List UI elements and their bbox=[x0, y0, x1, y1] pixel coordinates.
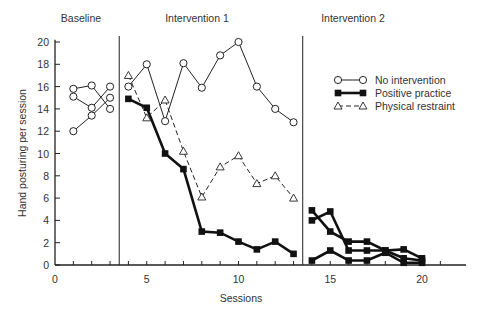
triangle-marker-icon bbox=[359, 102, 367, 109]
y-tick-label: 14 bbox=[37, 103, 49, 115]
data-series bbox=[70, 38, 426, 266]
legend-label: No intervention bbox=[375, 74, 446, 86]
circle-marker-icon bbox=[106, 94, 113, 101]
y-tick-label: 18 bbox=[37, 58, 49, 70]
y-tick-label: 16 bbox=[37, 81, 49, 93]
square-marker-icon bbox=[327, 247, 334, 254]
triangle-marker-icon bbox=[216, 163, 224, 170]
square-marker-icon bbox=[309, 217, 316, 224]
series-line bbox=[128, 75, 293, 198]
circle-marker-icon bbox=[334, 76, 341, 83]
square-marker-icon bbox=[254, 246, 261, 253]
circle-marker-icon bbox=[272, 105, 279, 112]
square-marker-icon bbox=[309, 207, 316, 214]
legend-label: Physical restraint bbox=[375, 100, 455, 112]
x-axis-label: Sessions bbox=[220, 292, 263, 304]
circle-marker-icon bbox=[180, 60, 187, 67]
triangle-marker-icon bbox=[161, 96, 169, 103]
square-marker-icon bbox=[345, 247, 352, 254]
circle-marker-icon bbox=[198, 84, 205, 91]
square-marker-icon bbox=[217, 229, 224, 236]
series-positive-practice bbox=[125, 96, 297, 258]
y-tick-label: 10 bbox=[37, 148, 49, 160]
x-tick-label: 5 bbox=[144, 273, 150, 285]
circle-marker-icon bbox=[143, 61, 150, 68]
circle-marker-icon bbox=[88, 112, 95, 119]
circle-marker-icon bbox=[253, 83, 260, 90]
square-marker-icon bbox=[364, 257, 371, 264]
series-physical-restraint bbox=[124, 71, 297, 201]
square-marker-icon bbox=[400, 259, 407, 266]
circle-marker-icon bbox=[70, 128, 77, 135]
series-baseline-c bbox=[70, 94, 114, 135]
x-tick-label: 20 bbox=[416, 273, 428, 285]
legend: No interventionPositive practicePhysical… bbox=[334, 74, 455, 112]
circle-marker-icon bbox=[125, 83, 132, 90]
square-marker-icon bbox=[327, 208, 334, 215]
square-marker-icon bbox=[162, 150, 169, 157]
circle-marker-icon bbox=[290, 119, 297, 126]
square-marker-icon bbox=[382, 249, 389, 256]
y-axis-label: Hand posturing per session bbox=[16, 89, 28, 217]
triangle-marker-icon bbox=[198, 193, 206, 200]
circle-marker-icon bbox=[359, 76, 366, 83]
circle-marker-icon bbox=[88, 104, 95, 111]
x-tick-label: 0 bbox=[52, 273, 58, 285]
square-marker-icon bbox=[272, 238, 279, 245]
square-marker-icon bbox=[364, 247, 371, 254]
phase-label: Baseline bbox=[61, 12, 101, 24]
phase-label: Intervention 1 bbox=[165, 12, 229, 24]
phase-label: Intervention 2 bbox=[321, 12, 385, 24]
series-no-intervention bbox=[125, 38, 297, 125]
y-tick-label: 2 bbox=[43, 237, 49, 249]
triangle-marker-icon bbox=[235, 152, 243, 159]
square-marker-icon bbox=[364, 238, 371, 245]
square-marker-icon bbox=[235, 238, 242, 245]
circle-marker-icon bbox=[162, 118, 169, 125]
circle-marker-icon bbox=[106, 83, 113, 90]
circle-marker-icon bbox=[70, 85, 77, 92]
circle-marker-icon bbox=[70, 93, 77, 100]
square-marker-icon bbox=[309, 257, 316, 264]
square-marker-icon bbox=[345, 257, 352, 264]
triangle-marker-icon bbox=[253, 180, 261, 187]
circle-marker-icon bbox=[235, 38, 242, 45]
y-tick-label: 0 bbox=[43, 259, 49, 271]
triangle-marker-icon bbox=[271, 172, 279, 179]
series-intervention-2-a bbox=[309, 207, 426, 264]
square-marker-icon bbox=[143, 104, 150, 111]
series-line bbox=[128, 42, 293, 122]
phase-labels: BaselineIntervention 1Intervention 2 bbox=[61, 12, 385, 24]
square-marker-icon bbox=[335, 90, 342, 97]
legend-label: Positive practice bbox=[375, 87, 452, 99]
circle-marker-icon bbox=[88, 82, 95, 89]
x-tick-label: 10 bbox=[233, 273, 245, 285]
phase-dividers bbox=[119, 36, 303, 265]
y-tick-label: 20 bbox=[37, 36, 49, 48]
square-marker-icon bbox=[419, 259, 426, 266]
square-marker-icon bbox=[400, 246, 407, 253]
y-tick-label: 4 bbox=[43, 214, 49, 226]
triangle-marker-icon bbox=[179, 147, 187, 154]
triangle-marker-icon bbox=[290, 194, 298, 201]
circle-marker-icon bbox=[106, 105, 113, 112]
square-marker-icon bbox=[199, 228, 206, 235]
circle-marker-icon bbox=[217, 52, 224, 59]
triangle-marker-icon bbox=[124, 71, 132, 78]
x-tick-label: 15 bbox=[324, 273, 336, 285]
y-tick-label: 6 bbox=[43, 192, 49, 204]
square-marker-icon bbox=[180, 166, 187, 173]
square-marker-icon bbox=[327, 228, 334, 235]
chart: BaselineIntervention 1Intervention 2 024… bbox=[0, 0, 480, 320]
square-marker-icon bbox=[125, 96, 132, 103]
square-marker-icon bbox=[360, 90, 367, 97]
square-marker-icon bbox=[290, 251, 297, 258]
y-tick-label: 12 bbox=[37, 125, 49, 137]
y-tick-label: 8 bbox=[43, 170, 49, 182]
series-line bbox=[128, 99, 293, 254]
